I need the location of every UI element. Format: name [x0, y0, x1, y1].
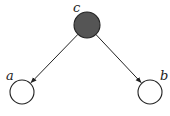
graph-diagram: cab	[0, 0, 170, 116]
node-a-circle	[10, 80, 34, 104]
edges	[31, 34, 141, 82]
node-b-label: b	[160, 68, 168, 83]
nodes: cab	[6, 0, 168, 104]
node-a-label: a	[6, 68, 14, 83]
node-c-label: c	[73, 0, 81, 15]
node-c: c	[73, 0, 100, 38]
node-b-circle	[138, 80, 162, 104]
edge-c-to-a	[31, 34, 78, 82]
node-b: b	[138, 68, 168, 104]
edge-c-to-b	[96, 34, 141, 82]
node-c-circle	[74, 12, 100, 38]
node-a: a	[6, 68, 34, 104]
